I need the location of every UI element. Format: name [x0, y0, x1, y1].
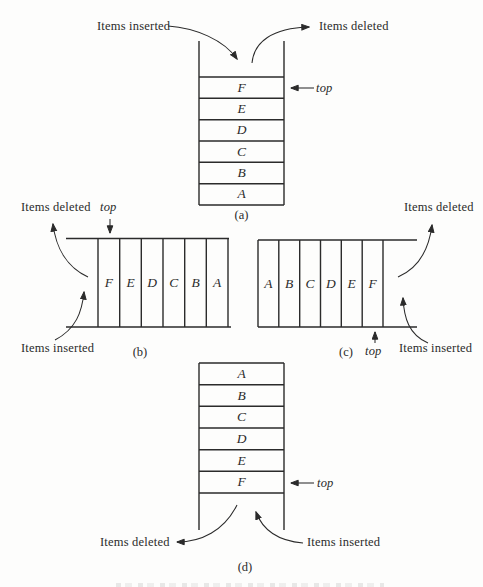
scanned-figure-page: Items inserted Items deleted top F E D C… [0, 0, 483, 587]
stack-d-cell-1: B [199, 385, 284, 407]
label-top-d: top [317, 476, 334, 490]
caption-d: (d) [225, 560, 265, 574]
stack-d-cells: A B C D E F [199, 363, 284, 493]
stack-d-cell-2: C [199, 406, 284, 428]
label-items-deleted-d: Items deleted [100, 535, 170, 549]
cropped-page-caption-fragment [116, 583, 384, 587]
label-items-inserted-d: Items inserted [307, 535, 380, 549]
stack-d-cell-4: E [199, 450, 284, 472]
diagram-d: top Items deleted Items inserted A B C D… [0, 0, 483, 587]
stack-d-cell-5: F [199, 471, 284, 493]
stack-d-cell-0: A [199, 363, 284, 385]
stack-d-cell-3: D [199, 428, 284, 450]
